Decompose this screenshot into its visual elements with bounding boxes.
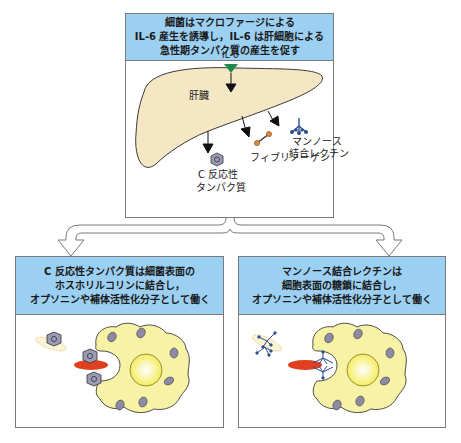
il6-label: IL-6 (222, 49, 238, 62)
crp-label-line1: C 反応性 (198, 168, 238, 181)
crp-molecules (47, 332, 101, 386)
mannose-binding-lectin-icon (291, 118, 308, 134)
fibrinogen-icon (254, 131, 271, 145)
mbl-macrophage-illustration (239, 257, 447, 429)
c-reactive-protein-icon (211, 153, 223, 166)
macrophage-nucleus (130, 354, 162, 386)
crp-macrophage-illustration (16, 257, 225, 429)
macrophage-nucleus (347, 354, 379, 386)
liver-label: 肝臓 (189, 89, 209, 102)
crp-opsonization-panel: C 反応性タンパク質は細菌表面の ホスホリルコリンに結合し， オプソニンや補体活… (15, 256, 224, 428)
mbl-opsonization-panel: マンノース結合レクチンは 細胞表面の糖鎖に結合し， オプソニンや補体活性化分子と… (238, 256, 446, 428)
fibrinogen-label: フィブリノーゲン (250, 151, 330, 164)
liver-acute-phase-panel: 細菌はマクロファージによる IL-6 産生を誘導し，IL-6 は肝細胞による 急… (125, 13, 334, 218)
crp-label-line2: タンパク質 (196, 181, 246, 194)
